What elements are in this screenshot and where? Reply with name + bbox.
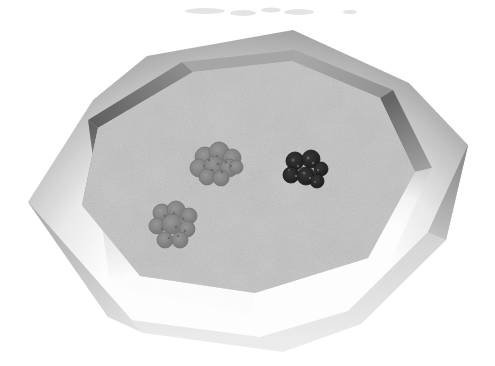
smudge-mark [261, 8, 281, 13]
smudge-mark [343, 10, 357, 14]
octagonal-dish-scene [0, 0, 495, 366]
figure-canvas [0, 0, 495, 366]
smudge-mark [284, 9, 314, 15]
smudge-mark [230, 10, 256, 16]
smudge-mark [185, 8, 225, 14]
